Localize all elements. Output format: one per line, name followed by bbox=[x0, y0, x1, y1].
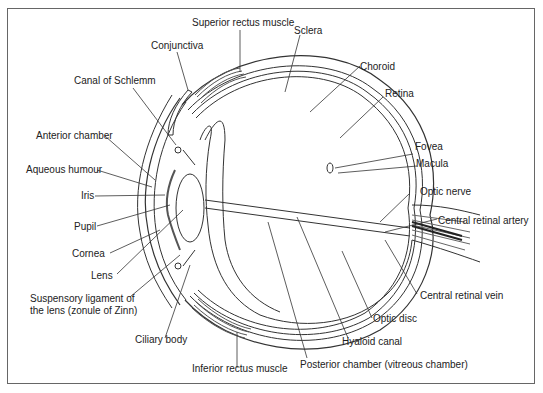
label-superior-rectus-muscle: Superior rectus muscle bbox=[192, 17, 294, 28]
label-canal-of-schlemm: Canal of Schlemm bbox=[74, 75, 156, 86]
cornea-outline bbox=[145, 98, 180, 305]
label-pupil: Pupil bbox=[74, 221, 96, 232]
label-suspensory-ligament-line2: the lens (zonule of Zinn) bbox=[30, 305, 137, 316]
lens-outline bbox=[176, 174, 204, 242]
label-iris: Iris bbox=[81, 190, 94, 201]
label-macula: Macula bbox=[416, 158, 448, 169]
label-inferior-rectus-muscle: Inferior rectus muscle bbox=[192, 363, 288, 374]
label-posterior-chamber: Posterior chamber (vitreous chamber) bbox=[300, 359, 468, 370]
label-fovea: Fovea bbox=[415, 141, 443, 152]
iris-outline bbox=[167, 170, 180, 250]
fovea-outline bbox=[327, 163, 333, 173]
label-cornea: Cornea bbox=[72, 248, 105, 259]
label-choroid: Choroid bbox=[360, 61, 395, 72]
label-retina: Retina bbox=[385, 88, 414, 99]
label-central-retinal-artery: Central retinal artery bbox=[438, 215, 529, 226]
label-lens: Lens bbox=[91, 270, 113, 281]
label-ciliary-body: Ciliary body bbox=[135, 334, 187, 345]
label-conjunctiva: Conjunctiva bbox=[151, 40, 203, 51]
label-sclera: Sclera bbox=[294, 25, 322, 36]
conjunctiva-outline bbox=[168, 90, 192, 135]
label-hyaloid-canal: Hyaloid canal bbox=[342, 336, 402, 347]
hyaloid-canal bbox=[205, 200, 410, 236]
label-suspensory-ligament-line1: Suspensory ligament of bbox=[30, 293, 135, 304]
label-central-retinal-vein: Central retinal vein bbox=[420, 290, 503, 301]
label-optic-disc: Optic disc bbox=[373, 313, 417, 324]
label-optic-nerve: Optic nerve bbox=[420, 186, 471, 197]
label-aqueous-humour: Aqueous humour bbox=[26, 164, 102, 175]
label-anterior-chamber: Anterior chamber bbox=[36, 130, 113, 141]
